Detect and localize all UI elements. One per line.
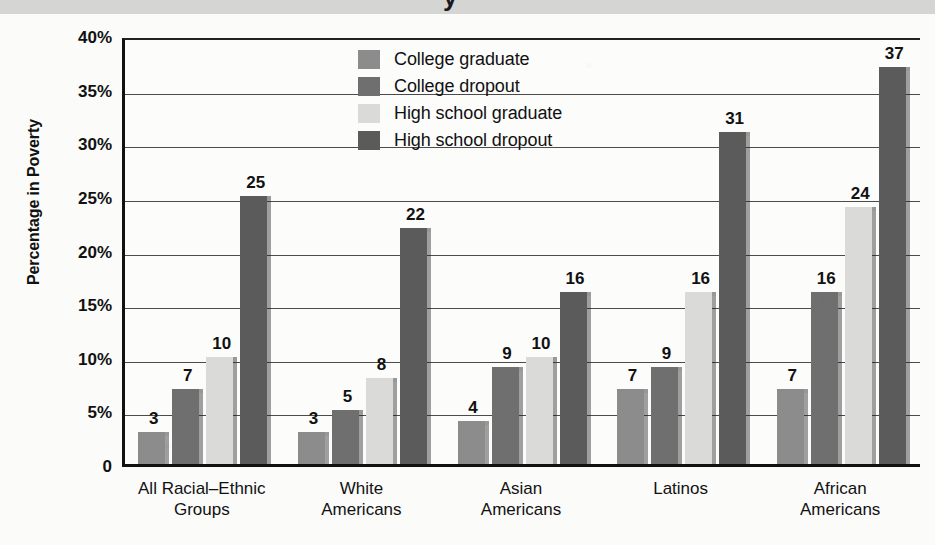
bar-value-label: 9: [662, 344, 671, 364]
y-axis-tick-label: 30%: [48, 135, 112, 155]
bar: 9: [492, 367, 523, 464]
legend-item[interactable]: College graduate: [358, 46, 658, 73]
legend-item-label: College dropout: [394, 76, 520, 97]
bar-value-label: 8: [377, 355, 386, 375]
bar-fill: [879, 67, 906, 464]
bar-value-label: 22: [406, 205, 425, 225]
legend-item-label: High school dropout: [394, 130, 552, 151]
bar: 7: [617, 389, 648, 464]
bar-fill: [206, 357, 233, 464]
bar-value-label: 4: [468, 398, 477, 418]
bar: 24: [845, 207, 876, 464]
bar-value-label: 31: [725, 109, 744, 129]
bar-shadow: [553, 361, 557, 464]
bar: 9: [651, 367, 682, 464]
bar-value-label: 9: [502, 344, 511, 364]
bar-shadow: [393, 382, 397, 464]
bar-value-label: 16: [817, 269, 836, 289]
bar-shadow: [838, 296, 842, 464]
legend-item[interactable]: College dropout: [358, 73, 658, 100]
chart-legend: College graduateCollege dropoutHigh scho…: [358, 46, 658, 154]
bar: 37: [879, 67, 910, 464]
bar-top-bevel: [804, 389, 808, 393]
x-axis-tick-label: African Americans: [760, 479, 920, 520]
bar-top-bevel: [587, 292, 591, 296]
bar-shadow: [165, 436, 169, 464]
bar-value-label: 37: [885, 44, 904, 64]
bar-top-bevel: [233, 357, 237, 361]
x-axis-tick-label: Asian Americans: [441, 479, 601, 520]
y-axis-tick-label: 10%: [48, 350, 112, 370]
bar: 8: [366, 378, 397, 464]
bar-top-bevel: [712, 292, 716, 296]
bar-fill: [719, 132, 746, 464]
legend-item[interactable]: High school graduate: [358, 100, 658, 127]
legend-swatch-icon: [358, 77, 380, 96]
bar-value-label: 24: [851, 184, 870, 204]
bar: 7: [777, 389, 808, 464]
bar-shadow: [519, 371, 523, 464]
bar: 3: [138, 432, 169, 464]
bar-top-bevel: [553, 357, 557, 361]
bar: 16: [560, 292, 591, 464]
y-axis-tick-label: 15%: [48, 296, 112, 316]
bar-fill: [138, 432, 165, 464]
y-axis-tick-label: 5%: [48, 403, 112, 423]
bar: 31: [719, 132, 750, 464]
bar-value-label: 3: [309, 409, 318, 429]
bar: 10: [526, 357, 557, 464]
bar-fill: [492, 367, 519, 464]
y-axis-tick-label: 40%: [48, 28, 112, 48]
bar: 3: [298, 432, 329, 464]
bar-fill: [685, 292, 712, 464]
bar-fill: [400, 228, 427, 464]
bar-value-label: 16: [566, 269, 585, 289]
bar: 4: [458, 421, 489, 464]
bar-shadow: [906, 71, 910, 464]
bar-top-bevel: [872, 207, 876, 211]
bar-top-bevel: [838, 292, 842, 296]
bar-shadow: [359, 414, 363, 464]
bar-shadow: [678, 371, 682, 464]
bar-shadow: [325, 436, 329, 464]
legend-swatch-icon: [358, 50, 380, 69]
x-axis-tick-label: White Americans: [282, 479, 442, 520]
bar-top-bevel: [165, 432, 169, 436]
bar-chart: Percentage in Poverty 05%10%15%20%25%30%…: [0, 0, 935, 545]
bar-fill: [366, 378, 393, 464]
y-axis-tick-label: 20%: [48, 243, 112, 263]
bar-value-label: 16: [691, 269, 710, 289]
bar-top-bevel: [644, 389, 648, 393]
bar-top-bevel: [906, 67, 910, 71]
bar-fill: [811, 292, 838, 464]
bar-fill: [651, 367, 678, 464]
bar-value-label: 7: [183, 366, 192, 386]
bar: 22: [400, 228, 431, 464]
legend-item-label: College graduate: [394, 49, 530, 70]
bar-top-bevel: [393, 378, 397, 382]
bar-fill: [777, 389, 804, 464]
bar-fill: [172, 389, 199, 464]
bar-shadow: [712, 296, 716, 464]
bar: 7: [172, 389, 203, 464]
bar-top-bevel: [485, 421, 489, 425]
bar-top-bevel: [519, 367, 523, 371]
bar-top-bevel: [199, 389, 203, 393]
bar-fill: [240, 196, 267, 464]
bar-value-label: 7: [628, 366, 637, 386]
bar: 5: [332, 410, 363, 464]
bar-shadow: [804, 393, 808, 464]
y-axis-tick-label: 0: [48, 457, 112, 477]
bar: 10: [206, 357, 237, 464]
bar-top-bevel: [359, 410, 363, 414]
bar-shadow: [872, 211, 876, 464]
bar-top-bevel: [678, 367, 682, 371]
legend-item[interactable]: High school dropout: [358, 127, 658, 154]
legend-item-label: High school graduate: [394, 103, 562, 124]
bar-fill: [298, 432, 325, 464]
bar-shadow: [587, 296, 591, 464]
bar-fill: [560, 292, 587, 464]
legend-swatch-icon: [358, 131, 380, 150]
x-axis-tick-label: All Racial–Ethnic Groups: [122, 479, 282, 520]
bar-value-label: 10: [532, 334, 551, 354]
